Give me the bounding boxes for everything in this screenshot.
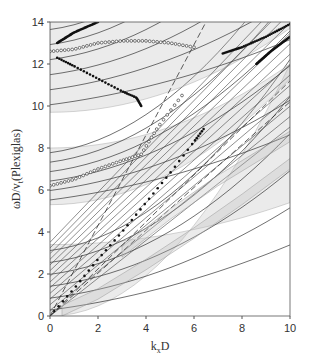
data-point-open bbox=[173, 104, 176, 107]
data-point-open bbox=[63, 49, 66, 52]
data-point bbox=[101, 80, 104, 83]
y-tick-label: 4 bbox=[38, 226, 44, 238]
data-point-open bbox=[111, 162, 114, 165]
data-point-open bbox=[153, 132, 156, 135]
data-point-open bbox=[111, 40, 114, 43]
data-point bbox=[139, 208, 142, 211]
data-point-open bbox=[82, 45, 85, 48]
data-point bbox=[96, 259, 99, 262]
data-point-open bbox=[93, 43, 96, 46]
data-point bbox=[110, 85, 113, 88]
data-point-open bbox=[115, 161, 118, 164]
data-point bbox=[195, 137, 198, 140]
y-tick-label: 10 bbox=[32, 100, 44, 112]
data-point bbox=[148, 198, 151, 201]
data-point-open bbox=[150, 136, 153, 139]
data-point-open bbox=[108, 164, 111, 167]
data-point bbox=[70, 290, 73, 293]
data-point-open bbox=[56, 182, 59, 185]
x-tick-label: 0 bbox=[47, 322, 53, 334]
data-point bbox=[194, 139, 197, 142]
data-point-open bbox=[56, 49, 59, 52]
data-point bbox=[92, 75, 95, 78]
data-point-open bbox=[142, 149, 145, 152]
x-tick-label: 4 bbox=[143, 322, 149, 334]
data-point bbox=[75, 285, 78, 288]
data-point bbox=[100, 254, 103, 257]
data-point-open bbox=[78, 46, 81, 49]
data-point-open bbox=[156, 40, 159, 43]
data-point-open bbox=[93, 169, 96, 172]
x-tick-label: 6 bbox=[191, 322, 197, 334]
plot-area bbox=[49, 0, 292, 317]
data-point-open bbox=[134, 40, 137, 43]
data-point-open bbox=[97, 42, 100, 45]
data-point-open bbox=[162, 118, 165, 121]
data-point bbox=[76, 67, 79, 70]
data-point-open bbox=[74, 47, 77, 50]
data-point-open bbox=[119, 40, 122, 43]
data-point bbox=[104, 81, 107, 84]
y-tick-label: 14 bbox=[32, 16, 44, 28]
data-point bbox=[116, 88, 119, 91]
data-point-open bbox=[60, 49, 63, 52]
x-tick-label: 8 bbox=[239, 322, 245, 334]
data-point-open bbox=[152, 40, 155, 43]
data-point-open bbox=[100, 166, 103, 169]
data-point-open bbox=[89, 171, 92, 174]
data-point-open bbox=[178, 43, 181, 46]
data-point bbox=[62, 300, 65, 303]
data-point bbox=[113, 86, 116, 89]
data-point-open bbox=[181, 94, 184, 97]
data-point-open bbox=[159, 41, 162, 44]
data-point bbox=[126, 224, 129, 227]
data-point-open bbox=[52, 183, 55, 186]
data-point bbox=[178, 160, 181, 163]
data-point-open bbox=[130, 40, 133, 43]
data-point-open bbox=[128, 157, 131, 160]
data-point-open bbox=[122, 159, 125, 162]
data-point-open bbox=[155, 128, 158, 131]
data-point-open bbox=[158, 123, 161, 126]
data-point bbox=[87, 269, 90, 272]
data-point bbox=[156, 187, 159, 190]
data-point-open bbox=[71, 48, 74, 51]
data-point-open bbox=[122, 40, 125, 43]
y-axis-label: ωD/vt(Plexiglas) bbox=[9, 129, 25, 209]
data-point-open bbox=[52, 50, 55, 53]
data-point-open bbox=[137, 40, 140, 43]
data-point-open bbox=[63, 181, 66, 184]
data-point-open bbox=[82, 174, 85, 177]
data-point-open bbox=[140, 153, 143, 156]
data-point bbox=[105, 249, 108, 252]
data-point bbox=[152, 192, 155, 195]
data-point-open bbox=[141, 40, 144, 43]
data-point-open bbox=[78, 176, 81, 179]
data-point-open bbox=[163, 41, 166, 44]
data-point bbox=[122, 229, 125, 232]
data-point bbox=[161, 182, 164, 185]
data-point-open bbox=[100, 41, 103, 44]
data-point bbox=[92, 264, 95, 267]
data-point-open bbox=[67, 48, 70, 51]
data-point bbox=[95, 76, 98, 79]
data-point bbox=[98, 78, 101, 81]
data-point bbox=[202, 128, 205, 131]
data-point bbox=[143, 203, 146, 206]
data-point bbox=[57, 305, 60, 308]
data-point-open bbox=[126, 40, 129, 43]
data-point bbox=[89, 73, 92, 76]
data-point-open bbox=[170, 42, 173, 45]
data-point-open bbox=[145, 40, 148, 43]
data-point bbox=[79, 280, 82, 283]
data-point-open bbox=[148, 40, 151, 43]
data-point-open bbox=[185, 45, 188, 48]
y-tick-label: 6 bbox=[38, 184, 44, 196]
data-point bbox=[73, 65, 76, 68]
data-point-open bbox=[167, 41, 170, 44]
data-point-open bbox=[104, 165, 107, 168]
data-point bbox=[107, 83, 110, 86]
y-tick-label: 0 bbox=[38, 310, 44, 322]
data-point-open bbox=[89, 44, 92, 47]
data-point-open bbox=[137, 154, 140, 157]
